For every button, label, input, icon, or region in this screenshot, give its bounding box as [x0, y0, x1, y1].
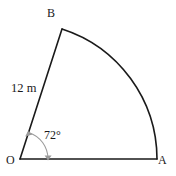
vertex-label-b: B	[47, 7, 55, 19]
vertex-label-a: A	[158, 154, 167, 166]
angle-marker-arrowhead-upper	[25, 131, 32, 136]
sector-diagram: B O A 12 m 72°	[0, 0, 176, 176]
angle-marker-arrowhead-lower	[45, 155, 52, 160]
vertex-label-o: O	[6, 154, 15, 166]
central-angle-label: 72°	[44, 129, 61, 141]
sector-arc-ab	[62, 29, 157, 159]
radius-length-label: 12 m	[11, 82, 36, 95]
